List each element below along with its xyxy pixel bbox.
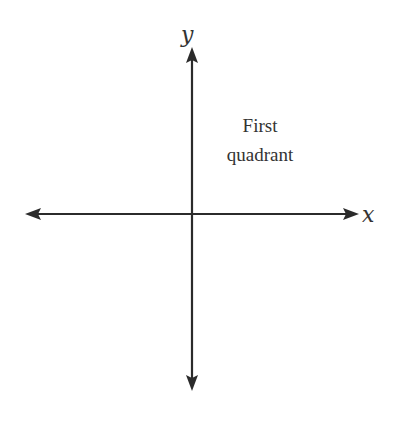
first-quadrant-annotation: First quadrant — [227, 115, 294, 165]
first-quadrant-label-line-1: First — [243, 115, 279, 136]
y-axis: y — [180, 22, 198, 391]
x-axis: x — [25, 202, 375, 227]
x-axis-label: x — [362, 202, 375, 227]
y-axis-label: y — [180, 22, 194, 47]
first-quadrant-label-line-2: quadrant — [227, 144, 294, 165]
coordinate-plane-diagram: x y First quadrant — [0, 0, 407, 424]
